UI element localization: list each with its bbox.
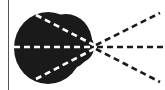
- diagram-canvas: [0, 0, 165, 90]
- ray-diagram: [0, 0, 165, 90]
- outer-ray-upper: [96, 13, 160, 45]
- outer-ray-lower: [96, 49, 160, 82]
- outer-rays: [96, 13, 164, 82]
